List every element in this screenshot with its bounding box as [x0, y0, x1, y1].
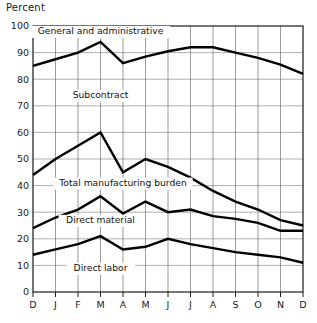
y-axis-tick-label: 40: [17, 180, 29, 191]
x-axis-tick-label: D: [29, 299, 36, 310]
series-annotation-label: Total manufacturing burden: [58, 177, 187, 188]
y-axis-tick-label: 70: [17, 100, 29, 111]
x-axis-tick-label: A: [210, 299, 217, 310]
y-axis-tick-label: 60: [17, 127, 29, 138]
x-axis-tick-label: F: [75, 299, 80, 310]
x-axis-tick-label: D: [299, 299, 306, 310]
x-axis-tick-label: J: [53, 299, 57, 310]
chart-container: Percent 0102030405060708090100DJFMAMJJAS…: [0, 0, 317, 323]
y-axis-tick-label: 80: [17, 74, 29, 85]
y-axis-tick-label: 10: [17, 260, 29, 271]
y-axis-tick-label: 0: [23, 286, 29, 297]
x-axis-tick-label: N: [277, 299, 284, 310]
x-axis-tick-label: O: [254, 299, 261, 310]
series-annotation-label: Direct material: [66, 214, 135, 225]
x-axis-tick-label: M: [96, 299, 104, 310]
line-chart-plot: 0102030405060708090100DJFMAMJJASONDGener…: [0, 0, 317, 323]
series-annotation-label: Direct labor: [74, 262, 128, 273]
y-axis-tick-label: 20: [17, 233, 29, 244]
y-axis-tick-label: 30: [17, 207, 29, 218]
y-axis-tick-label: 90: [17, 47, 29, 58]
x-axis-tick-label: J: [166, 299, 170, 310]
x-axis-tick-label: J: [188, 299, 192, 310]
x-axis-tick-label: M: [141, 299, 149, 310]
y-axis-tick-label: 100: [11, 20, 29, 31]
series-annotation-label: General and administrative: [38, 25, 164, 36]
x-axis-tick-label: A: [120, 299, 127, 310]
y-axis-tick-label: 50: [17, 153, 29, 164]
x-axis-tick-label: S: [232, 299, 238, 310]
series-annotation-label: Subcontract: [73, 89, 129, 100]
